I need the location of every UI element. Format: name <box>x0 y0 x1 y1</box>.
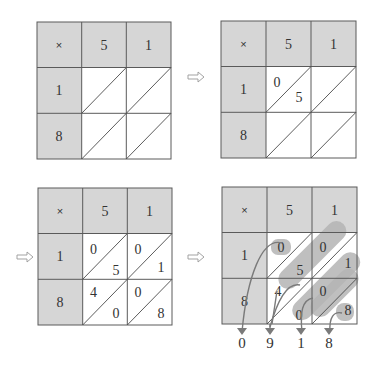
cell-tens: 0 <box>135 285 142 300</box>
panel-step-2: × 5 1 1 8 0 5 <box>221 21 356 158</box>
arrowhead-icon <box>237 328 247 335</box>
left-digit: 1 <box>56 83 63 98</box>
cell-tens: 0 <box>320 240 327 255</box>
top-digit: 5 <box>101 38 108 53</box>
left-digit: 8 <box>56 129 63 144</box>
result-digit: 0 <box>238 335 246 351</box>
cell-tens: 0 <box>274 75 281 90</box>
operator-label: × <box>57 205 63 217</box>
cell-units: 5 <box>297 263 304 278</box>
cell-tens: 0 <box>135 242 142 257</box>
cell-units: 1 <box>345 256 352 271</box>
cell-units: 1 <box>158 260 165 275</box>
step-arrow-icon <box>188 72 204 82</box>
arrowhead-icon <box>296 328 306 335</box>
arrowhead-icon <box>324 328 334 335</box>
left-digit: 1 <box>241 248 248 263</box>
left-digit: 8 <box>240 128 247 143</box>
left-digit: 1 <box>240 82 247 97</box>
cell-units: 0 <box>113 306 120 321</box>
panel-step-3: × 5 1 1 8 0 5 0 1 4 0 0 8 <box>38 188 172 325</box>
top-digit: 1 <box>330 37 337 52</box>
cell-units: 5 <box>296 90 303 105</box>
lattice-diagram: × 5 1 1 8 × 5 1 1 8 0 5 <box>0 0 375 368</box>
top-digit: 1 <box>145 38 152 53</box>
top-digit: 5 <box>286 203 293 218</box>
cell-units: 8 <box>158 306 165 321</box>
result-digit: 1 <box>297 335 305 351</box>
cell-tens: 4 <box>90 285 97 300</box>
top-digit: 5 <box>285 37 292 52</box>
top-digit: 1 <box>331 203 338 218</box>
panel-step-4: × 5 1 1 8 0 5 0 1 4 0 0 8 0 9 1 8 <box>222 187 364 351</box>
result-digit: 9 <box>266 335 274 351</box>
cell-units: 8 <box>345 303 352 318</box>
operator-label: × <box>56 39 62 51</box>
operator-label: × <box>241 204 247 216</box>
left-digit: 1 <box>57 249 64 264</box>
top-digit: 5 <box>102 204 109 219</box>
cell-tens: 0 <box>90 242 97 257</box>
arrowhead-icon <box>265 328 275 335</box>
top-digit: 1 <box>146 204 153 219</box>
step-arrow-icon <box>17 252 33 262</box>
result-digit: 8 <box>325 335 333 351</box>
step-arrow-icon <box>188 252 204 262</box>
panel-step-1: × 5 1 1 8 <box>37 22 171 159</box>
left-digit: 8 <box>57 295 64 310</box>
cell-tens: 0 <box>320 284 327 299</box>
operator-label: × <box>240 38 246 50</box>
cell-units: 5 <box>113 263 120 278</box>
